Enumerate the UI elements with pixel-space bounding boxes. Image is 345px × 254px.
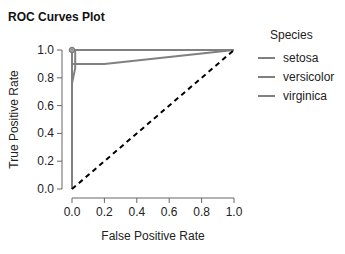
x-tick-label: 0.0	[64, 205, 81, 219]
y-tick-label: 0.2	[37, 154, 54, 168]
curve-chance	[72, 50, 234, 189]
point-marker	[69, 47, 75, 53]
legend-item-versicolor: versicolor	[258, 67, 334, 86]
x-tick-label: 0.8	[193, 205, 210, 219]
legend-line-icon	[258, 95, 275, 97]
legend-item-setosa: setosa	[258, 48, 334, 67]
x-tick-label: 0.2	[96, 205, 113, 219]
y-tick-label: 0.0	[37, 182, 54, 196]
legend-line-icon	[258, 57, 275, 59]
legend: Species setosa versicolor virginica	[258, 28, 334, 105]
axes: 0.00.20.40.60.81.00.00.20.40.60.81.0Fals…	[7, 43, 243, 243]
legend-line-icon	[258, 76, 275, 78]
x-tick-label: 1.0	[226, 205, 243, 219]
y-axis-title: True Positive Rate	[7, 70, 21, 169]
y-tick-label: 0.8	[37, 71, 54, 85]
y-tick-label: 0.6	[37, 99, 54, 113]
y-tick-label: 1.0	[37, 43, 54, 57]
legend-item-virginica: virginica	[258, 86, 334, 105]
legend-label: versicolor	[283, 70, 334, 84]
y-tick-label: 0.4	[37, 126, 54, 140]
legend-label: virginica	[283, 89, 327, 103]
curves	[69, 47, 234, 189]
legend-label: setosa	[283, 51, 318, 65]
x-axis-title: False Positive Rate	[101, 229, 205, 243]
legend-title: Species	[270, 28, 334, 42]
x-tick-label: 0.6	[161, 205, 178, 219]
x-tick-label: 0.4	[128, 205, 145, 219]
